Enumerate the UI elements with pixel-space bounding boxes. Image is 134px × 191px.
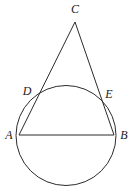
segment-b-to-c (75, 22, 114, 135)
vertex-label-e: E (104, 87, 113, 101)
geometry-figure: C D E A B (0, 0, 134, 191)
vertex-label-b: B (120, 128, 128, 142)
vertex-label-d: D (22, 84, 32, 98)
vertex-label-a: A (4, 128, 13, 142)
geometry-canvas: C D E A B (0, 0, 134, 191)
vertex-label-c: C (71, 2, 80, 16)
segment-a-to-c (19, 22, 75, 135)
